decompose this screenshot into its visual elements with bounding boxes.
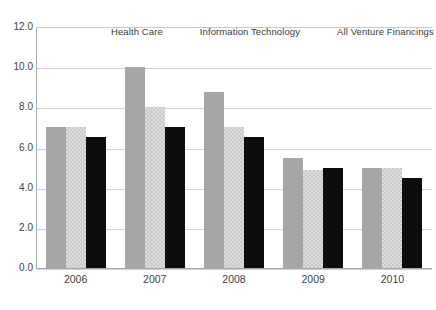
legend-swatch-icon-information-technology <box>189 28 196 35</box>
bar <box>165 127 185 268</box>
gridline <box>37 269 432 270</box>
x-axis-tick-label: 2007 <box>115 273 194 285</box>
x-axis-tick-label: 2010 <box>353 273 432 285</box>
x-axis: 20062007200820092010 <box>36 273 432 291</box>
chart-legend: Health Care Information Technology All V… <box>100 23 430 39</box>
bar <box>382 168 402 268</box>
y-axis-tick-label: 8.0 <box>1 102 33 112</box>
y-axis-tick-label: 12.0 <box>1 22 33 32</box>
bar <box>402 178 422 268</box>
bar-group <box>46 27 106 268</box>
bars-layer <box>36 27 432 268</box>
bar <box>224 127 244 268</box>
legend-label-all-venture-financings: All Venture Financings <box>337 26 434 37</box>
legend-entry-information-technology: Information Technology <box>189 26 300 37</box>
bar <box>66 127 86 268</box>
x-axis-line <box>36 268 432 269</box>
bar <box>323 168 343 268</box>
bar <box>204 92 224 268</box>
bar-group <box>204 27 264 268</box>
legend-swatch-icon-health-care <box>100 28 107 35</box>
x-axis-tick-label: 2008 <box>194 273 273 285</box>
bar-group <box>283 27 343 268</box>
y-axis-tick-label: 2.0 <box>1 223 33 233</box>
y-axis: 12.010.08.06.04.02.00.0 <box>0 0 33 310</box>
bar <box>145 107 165 268</box>
x-axis-tick-label: 2006 <box>36 273 115 285</box>
bar <box>303 170 323 268</box>
bar <box>362 168 382 268</box>
bar <box>46 127 66 268</box>
y-axis-tick-label: 10.0 <box>1 62 33 72</box>
legend-entry-health-care: Health Care <box>100 26 163 37</box>
bar <box>86 137 106 268</box>
y-axis-tick-label: 0.0 <box>1 263 33 273</box>
legend-label-health-care: Health Care <box>111 26 163 37</box>
bar <box>125 67 145 268</box>
x-axis-tick-label: 2009 <box>274 273 353 285</box>
bar-chart: Health Care Information Technology All V… <box>0 0 436 310</box>
legend-swatch-icon-all-venture-financings <box>326 28 333 35</box>
bar-group <box>362 27 422 268</box>
legend-entry-all-venture-financings: All Venture Financings <box>326 26 434 37</box>
y-axis-tick-label: 4.0 <box>1 183 33 193</box>
bar-group <box>125 27 185 268</box>
legend-label-information-technology: Information Technology <box>200 26 300 37</box>
bar <box>244 137 264 268</box>
bar <box>283 158 303 268</box>
y-axis-tick-label: 6.0 <box>1 143 33 153</box>
